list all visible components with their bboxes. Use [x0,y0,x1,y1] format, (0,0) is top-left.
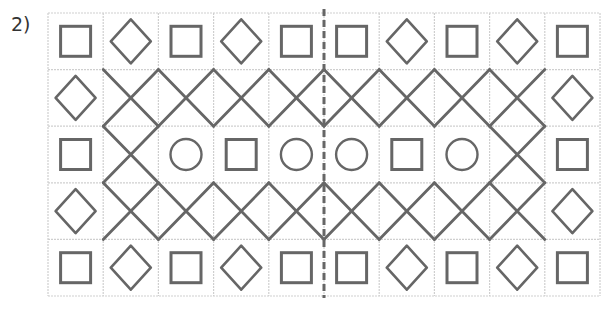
square-icon [61,140,91,170]
cross-lines [434,70,489,127]
cross-lines [324,183,379,240]
cross-lines [490,126,545,183]
symmetry-grid [0,0,614,311]
cross-lines [490,70,545,127]
square-icon [61,26,91,56]
square-icon [171,26,201,56]
cross-lines [158,70,213,127]
diamond-icon [221,19,261,63]
circle-icon [171,139,202,170]
square-icon [171,253,201,283]
square-icon [226,140,256,170]
diamond-icon [552,76,592,120]
cross-lines [214,70,269,127]
square-icon [557,140,587,170]
cross-lines [103,183,158,240]
square-icon [392,140,422,170]
square-icon [337,253,367,283]
cross-lines [158,183,213,240]
cross-lines [324,70,379,127]
diamond-icon [387,19,427,63]
square-icon [557,26,587,56]
diamond-icon [497,246,537,290]
square-icon [447,26,477,56]
diamond-icon [497,19,537,63]
circle-icon [281,139,312,170]
cross-lines [103,126,158,183]
square-icon [337,26,367,56]
square-icon [281,253,311,283]
cross-lines [379,70,434,127]
cross-lines [434,183,489,240]
cross-lines [103,70,158,127]
circle-icon [336,139,367,170]
cross-lines [214,183,269,240]
cross-lines [379,183,434,240]
square-icon [281,26,311,56]
diamond-icon [552,189,592,233]
cross-lines [269,183,324,240]
diamond-icon [56,189,96,233]
diamond-icon [56,76,96,120]
square-icon [447,253,477,283]
square-icon [557,253,587,283]
diamond-icon [111,19,151,63]
diamond-icon [111,246,151,290]
diamond-icon [387,246,427,290]
circle-icon [447,139,478,170]
square-icon [61,253,91,283]
cross-lines [269,70,324,127]
cross-lines [490,183,545,240]
diamond-icon [221,246,261,290]
